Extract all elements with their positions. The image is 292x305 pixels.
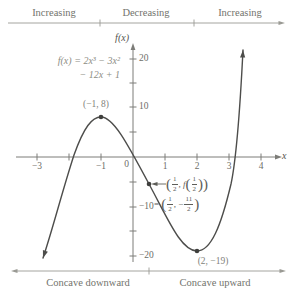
x-tick-4: 4 bbox=[251, 161, 271, 171]
inflection-annotation-line2: = (12, −112) bbox=[154, 195, 199, 213]
paren-close: ) bbox=[203, 177, 208, 192]
x-tick-neg3: −3 bbox=[27, 161, 47, 171]
paren-open: ( bbox=[166, 177, 171, 192]
formula-line-2: − 12x + 1 bbox=[36, 68, 120, 82]
relative-maximum-point bbox=[99, 115, 104, 120]
paren-open-inner: ( bbox=[186, 177, 191, 192]
function-formula: f(x) = 2x³ − 3x² − 12x + 1 bbox=[36, 54, 120, 82]
x-axis-arrow-icon bbox=[275, 155, 282, 160]
x-tick-2: 2 bbox=[187, 161, 207, 171]
x-tick-1: 1 bbox=[155, 161, 175, 171]
bottom-interval-right-arrow-icon bbox=[280, 269, 287, 273]
relative-minimum-label: (2, −19) bbox=[181, 256, 245, 266]
comma: , bbox=[174, 199, 176, 209]
cubic-function-figure: Increasing Decreasing Increasing Concave… bbox=[0, 0, 292, 305]
inflection-leader-arrow-icon bbox=[151, 182, 158, 186]
fraction-one-half: 12 bbox=[172, 175, 178, 192]
equals-sign: = bbox=[154, 199, 159, 209]
comma-f: , f bbox=[179, 179, 186, 189]
curve-left-arrow-icon bbox=[43, 250, 48, 258]
fraction-one-half-inner: 12 bbox=[192, 175, 198, 192]
relative-maximum-label: (−1, 8) bbox=[64, 99, 128, 109]
relative-minimum-point bbox=[195, 249, 200, 254]
x-axis-label: x bbox=[282, 150, 286, 161]
inflection-point bbox=[147, 182, 152, 187]
inflection-annotation-line1: (12, f(12)) bbox=[166, 175, 208, 193]
top-interval-right-arrow-icon bbox=[279, 21, 286, 25]
formula-line-1: f(x) = 2x³ − 3x² bbox=[36, 54, 120, 68]
increasing-label-right: Increasing bbox=[200, 7, 280, 18]
fraction-one-half: 12 bbox=[167, 195, 173, 212]
y-axis-arrow-icon bbox=[131, 43, 136, 50]
decreasing-label: Decreasing bbox=[106, 7, 186, 18]
y-tick-neg20: −20 bbox=[139, 250, 163, 260]
paren-open: ( bbox=[161, 197, 166, 212]
y-axis-label: f(x) bbox=[108, 32, 129, 43]
bottom-interval-left-arrow-icon bbox=[11, 269, 18, 273]
fraction-eleven-halves: 112 bbox=[184, 195, 193, 212]
increasing-label-left: Increasing bbox=[14, 7, 94, 18]
concave-upward-label: Concave upward bbox=[155, 277, 275, 288]
y-tick-20: 20 bbox=[139, 53, 163, 63]
minus-sign: − bbox=[178, 199, 183, 209]
origin-label: 0 bbox=[118, 159, 129, 169]
paren-close: ) bbox=[194, 197, 199, 212]
concave-downward-label: Concave downward bbox=[28, 277, 148, 288]
y-tick-10: 10 bbox=[139, 101, 163, 111]
x-tick-3: 3 bbox=[219, 161, 239, 171]
x-tick-neg1: −1 bbox=[91, 161, 111, 171]
curve-right-arrow-icon bbox=[240, 50, 245, 58]
